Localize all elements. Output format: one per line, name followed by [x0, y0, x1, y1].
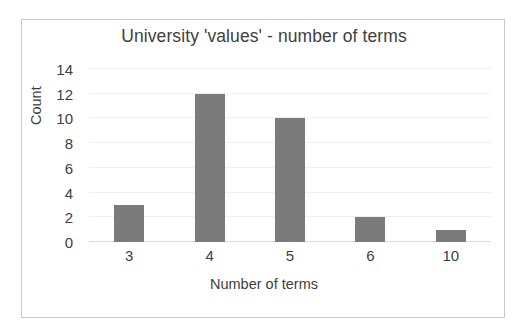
bar: [436, 230, 466, 242]
y-tick-label: 0: [65, 235, 73, 250]
plot-area: [89, 69, 491, 242]
y-tick-label: 14: [56, 62, 73, 77]
y-tick-label: 2: [65, 210, 73, 225]
x-axis-title: Number of terms: [22, 276, 506, 292]
y-axis-tick-labels: 02468101214: [22, 69, 82, 242]
bar: [275, 118, 305, 242]
chart-frame: University 'values' - number of terms Co…: [21, 19, 505, 318]
x-tick-label: 5: [286, 248, 294, 263]
x-tick-label: 6: [366, 248, 374, 263]
y-tick-label: 4: [65, 185, 73, 200]
y-tick-label: 12: [56, 86, 73, 101]
y-tick-label: 8: [65, 136, 73, 151]
x-tick-label: 3: [125, 248, 133, 263]
chart-title: University 'values' - number of terms: [22, 26, 506, 47]
x-axis-tick-labels: 345610: [89, 248, 491, 270]
bar: [195, 94, 225, 242]
bar: [114, 205, 144, 242]
chart-figure: University 'values' - number of terms Co…: [0, 0, 528, 334]
y-tick-label: 10: [56, 111, 73, 126]
x-tick-label: 10: [442, 248, 459, 263]
y-tick-label: 6: [65, 160, 73, 175]
bar: [355, 217, 385, 242]
gridline: [89, 68, 491, 69]
x-tick-label: 4: [205, 248, 213, 263]
gridline: [89, 93, 491, 94]
